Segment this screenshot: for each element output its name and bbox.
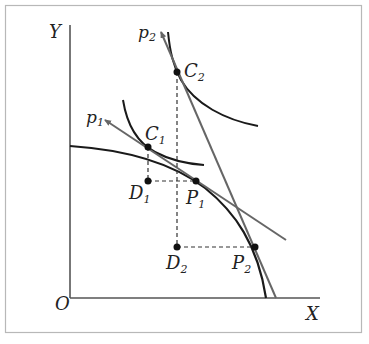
production-possibility-frontier [70,146,266,298]
ppf-diagram: Y X O p2 C2 p1 C1 D1 P1 D2 P2 [0,0,369,344]
label-c1: C1 [145,123,166,147]
label-d1: D1 [128,182,150,206]
point-c2 [174,69,181,76]
label-p1-point: P1 [185,187,205,211]
x-axis-label: X [304,303,320,324]
point-c1 [145,144,152,151]
label-c2: C2 [184,60,205,84]
label-d2: D2 [165,252,187,276]
figure-frame [6,6,362,333]
label-p1: p1 [86,107,104,129]
label-p2: p2 [138,22,156,44]
origin-label: O [55,293,70,314]
point-p2 [252,244,259,251]
point-p1 [193,178,200,185]
y-axis-label: Y [49,21,63,42]
label-p2-point: P2 [231,252,251,276]
point-d2 [174,244,181,251]
point-d1 [145,178,152,185]
